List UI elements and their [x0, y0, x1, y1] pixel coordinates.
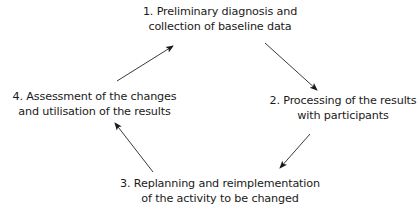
arrow-2-to-3-icon — [280, 134, 310, 168]
arrow-1-to-2-icon — [265, 43, 317, 90]
arrow-3-to-4-icon — [115, 123, 153, 172]
cycle-arrows — [0, 0, 419, 215]
arrow-4-to-1-icon — [117, 46, 173, 81]
